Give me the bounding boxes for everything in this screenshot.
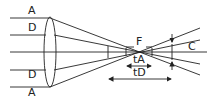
label-a-bottom: A xyxy=(28,86,36,99)
label-d-bottom: D xyxy=(28,68,36,81)
label-ta: tA xyxy=(133,53,145,66)
label-a-top: A xyxy=(28,4,36,17)
ray-d-top-refracted xyxy=(54,35,200,64)
label-d-top: D xyxy=(28,21,36,34)
label-c: C xyxy=(188,40,196,53)
label-td: tD xyxy=(133,66,146,79)
ray-d-bottom-refracted xyxy=(54,40,200,70)
label-focus: F xyxy=(136,35,142,48)
ray-a-bottom-refracted xyxy=(50,28,200,87)
depth-of-focus-diagram: A D D A F C tA tD xyxy=(0,0,207,103)
